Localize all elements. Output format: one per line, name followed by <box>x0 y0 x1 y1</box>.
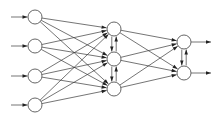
output-neuron-o1 <box>177 35 191 49</box>
input-neuron-i2 <box>28 39 42 53</box>
hidden-neuron-h2 <box>107 52 121 66</box>
input-neuron-i4 <box>28 98 42 112</box>
weight-edge <box>121 44 177 58</box>
weight-edge <box>120 46 178 85</box>
weight-edge <box>42 18 107 28</box>
input-neuron-i1 <box>28 10 42 24</box>
weight-edge <box>41 33 108 73</box>
output-neuron-o2 <box>177 66 191 80</box>
neural-network-diagram <box>0 0 220 122</box>
weight-edge <box>42 31 107 45</box>
hidden-neuron-h1 <box>107 22 121 36</box>
hidden-neuron-h3 <box>107 82 121 96</box>
weight-edge <box>42 90 107 103</box>
neuron-nodes <box>28 10 191 112</box>
input-neuron-i3 <box>28 69 42 83</box>
weight-edge <box>121 75 177 88</box>
weight-edge <box>41 63 107 102</box>
weight-edge <box>121 30 177 40</box>
